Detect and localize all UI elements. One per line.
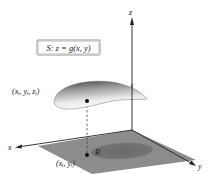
surface-projection-diagram: S: z = g(x, y) z x y (xᵢ, yᵢ, zᵢ) (xᵢ, y… [0,0,213,174]
y-axis-label: y [197,162,202,171]
surface-label: S: z = g(x, y) [46,43,90,53]
point-on-region [85,153,89,157]
point-on-surface-label: (xᵢ, yᵢ, zᵢ) [12,87,40,96]
y-axis-arrow-icon [189,161,196,167]
z-axis-arrow-icon [130,17,134,25]
point-on-surface [85,99,89,103]
surface-s [54,81,147,109]
x-axis-arrow-icon [15,145,22,149]
z-axis-label: z [128,8,133,17]
x-axis-label: x [7,143,12,152]
region-label: R [94,147,101,157]
point-on-region-label: (xᵢ, yᵢ) [56,159,75,168]
